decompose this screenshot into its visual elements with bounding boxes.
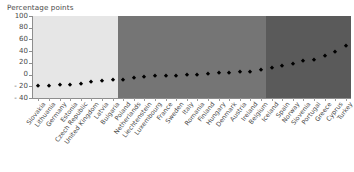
plot-area: [33, 16, 351, 98]
y-tick-label: 40: [19, 48, 28, 55]
y-tick-label: 20: [19, 59, 28, 66]
y-tick-label: 100: [15, 13, 28, 20]
chart-root: Percentage points - 40- 20020406080100 S…: [0, 0, 354, 172]
x-axis-category-labels: SlovakiaLithuaniaGermanyEstoniaCzech Rep…: [0, 101, 354, 172]
y-axis-title: Percentage points: [7, 3, 74, 12]
y-axis-tick-labels: - 40- 20020406080100: [0, 16, 32, 98]
y-tick-label: 0: [24, 71, 28, 78]
data-point: [269, 65, 274, 70]
y-tick-label: - 20: [14, 83, 28, 90]
band-dark: [266, 16, 351, 98]
y-axis-line: [32, 16, 33, 98]
y-tick-label: 80: [19, 24, 28, 31]
band-medium: [118, 16, 266, 98]
y-tick-label: 60: [19, 36, 28, 43]
